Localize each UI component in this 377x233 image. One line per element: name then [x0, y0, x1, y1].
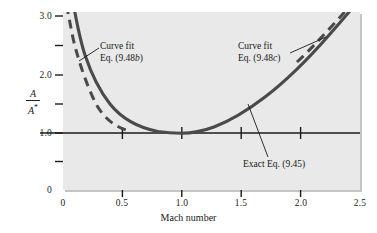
y-axis-title-denominator: A* — [26, 102, 40, 116]
y-tick-label-2: 2.0 — [22, 70, 52, 80]
y-tick-label-0: 0 — [22, 185, 52, 195]
annotation-curve-fit-right-line2: Eq. (9.48c) — [238, 52, 280, 64]
y-axis-title-fraction-bar — [26, 100, 40, 101]
annotation-curve-fit-left-line1: Curve fit — [100, 40, 143, 52]
x-tick-label-2-0: 2.0 — [286, 198, 316, 208]
x-axis-ticks — [122, 190, 300, 197]
y-tick-label-1: 1.0 — [22, 128, 52, 138]
annotation-curve-fit-left-line2: Eq. (9.48b) — [100, 52, 143, 64]
annotation-curve-fit-right-line1: Curve fit — [238, 40, 280, 52]
annotation-curve-fit-right-eq-suffix: ) — [277, 53, 280, 63]
y-axis-title-numerator: A — [26, 88, 40, 99]
leader-exact — [248, 104, 268, 157]
x-tick-label-0-5: 0.5 — [107, 198, 137, 208]
annotation-exact-equation-line1: Exact Eq. (9.45) — [243, 158, 305, 170]
annotation-exact-equation: Exact Eq. (9.45) — [243, 158, 305, 170]
x-tick-label-1-5: 1.5 — [226, 198, 256, 208]
annotation-curve-fit-right: Curve fit Eq. (9.48c) — [238, 40, 280, 64]
y-axis-title-star: * — [34, 103, 38, 112]
y-axis-title: A A* — [16, 88, 50, 116]
annotation-curve-fit-left-eq-prefix: Eq. (9.48 — [100, 53, 135, 63]
y-axis-title-fraction: A A* — [26, 88, 40, 116]
curve-exact-9-45 — [74, 1, 359, 133]
annotation-curve-fit-left: Curve fit Eq. (9.48b) — [100, 40, 143, 64]
y-tick-label-3: 3.0 — [22, 11, 52, 21]
x-tick-label-0: 0 — [48, 198, 78, 208]
x-tick-label-2-5: 2.5 — [345, 198, 375, 208]
annotation-curve-fit-right-eq-prefix: Eq. (9.48 — [238, 53, 273, 63]
x-axis-title: Mach number — [0, 212, 377, 223]
x-tick-label-1-0: 1.0 — [167, 198, 197, 208]
chart-figure: 3.0 2.0 1.0 0 0 0.5 1.0 1.5 2.0 2.5 Mach… — [0, 0, 377, 233]
y-axis-ticks — [55, 16, 63, 162]
annotation-curve-fit-left-eq-suffix: ) — [140, 53, 143, 63]
reference-line-group — [40, 127, 360, 139]
curve-fit-9-48c — [297, 0, 357, 62]
